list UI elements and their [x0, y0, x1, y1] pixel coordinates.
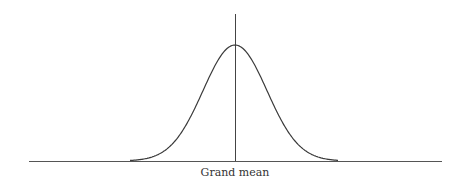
grand-mean-label: Grand mean — [0, 166, 465, 179]
normal-curve — [130, 45, 338, 160]
diagram-canvas — [0, 0, 465, 184]
